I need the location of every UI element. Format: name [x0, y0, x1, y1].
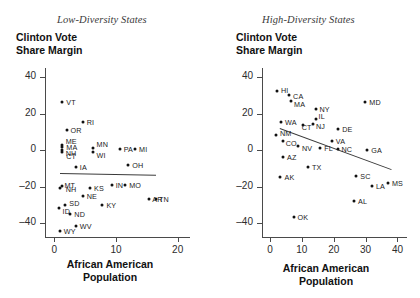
data-point-label: SD	[69, 198, 79, 207]
x-axis-tick	[54, 238, 55, 242]
data-point-label: ND	[74, 210, 85, 219]
data-point-label: RI	[87, 117, 95, 126]
data-point	[330, 139, 333, 142]
data-point-label: GA	[371, 146, 382, 155]
data-point-label: MS	[392, 178, 403, 187]
data-point	[280, 120, 283, 123]
y-axis-tick-label: 20	[242, 107, 253, 118]
data-point-label: WA	[285, 117, 297, 126]
y-axis-line	[45, 68, 46, 238]
y-axis-label-low-diversity: Clinton Vote Share Margin	[16, 31, 83, 56]
data-point-label: OK	[298, 212, 309, 221]
data-point	[91, 146, 94, 149]
panel-low-diversity: Low-Diversity States Clinton Vote Share …	[0, 0, 210, 298]
x-axis-label-line1: African American	[246, 262, 406, 275]
y-axis-tick: 20	[257, 114, 262, 115]
data-point-label: NH	[66, 184, 77, 193]
data-point	[61, 146, 64, 149]
data-point	[319, 147, 322, 150]
x-axis-tick	[366, 238, 367, 242]
data-point-label: PA	[124, 144, 133, 153]
data-point	[282, 155, 285, 158]
data-point	[364, 101, 367, 104]
y-axis-tick: 0	[40, 150, 45, 151]
data-point-label: NM	[280, 129, 291, 138]
data-point-label: AK	[284, 173, 294, 182]
x-axis-label-low-diversity: African American Population	[30, 258, 190, 283]
x-axis-tick-label: 40	[392, 244, 403, 255]
data-point	[57, 207, 60, 210]
data-point	[127, 164, 130, 167]
data-point-label: FL	[324, 144, 333, 153]
data-point-label: SC	[360, 172, 370, 181]
y-axis-tick-label: –40	[236, 216, 253, 227]
x-axis-tick	[116, 238, 117, 242]
data-point	[366, 149, 369, 152]
data-point	[314, 118, 317, 121]
x-axis-tick	[302, 238, 303, 242]
data-point-label: IL	[319, 112, 325, 121]
y-axis-tick: 0	[257, 150, 262, 151]
y-axis-label-line1: Clinton Vote	[16, 31, 83, 44]
data-point-label: OR	[71, 126, 82, 135]
data-point	[101, 203, 104, 206]
y-axis-tick: 40	[257, 77, 262, 78]
data-point	[124, 183, 127, 186]
y-axis-tick-label: 0	[30, 143, 36, 154]
data-point	[61, 101, 64, 104]
data-point	[64, 203, 67, 206]
x-axis-tick-label: 0	[51, 244, 57, 255]
data-point-label: WI	[97, 150, 106, 159]
data-point-label: AL	[358, 196, 367, 205]
panel-high-diversity: High-Diversity States Clinton Vote Share…	[210, 0, 420, 298]
y-axis-tick: –40	[257, 223, 262, 224]
y-axis-label-line2: Share Margin	[236, 44, 303, 57]
data-point	[74, 166, 77, 169]
y-axis-tick: –20	[40, 187, 45, 188]
data-point-label: NC	[342, 145, 353, 154]
data-point	[281, 140, 284, 143]
y-axis-tick: –40	[40, 223, 45, 224]
data-point-label: OH	[132, 161, 143, 170]
data-point-label: LA	[376, 182, 385, 191]
x-axis-label-line2: Population	[30, 271, 190, 284]
data-point	[288, 94, 291, 97]
data-point-label: TX	[312, 162, 322, 171]
x-axis-tick-label: 10	[296, 244, 307, 255]
y-axis-tick: –20	[257, 187, 262, 188]
plot-area-high-diversity: 40200–20–40010203040HICAMAMDNYWAILCTNJDE…	[262, 68, 407, 238]
data-point-label: VT	[66, 98, 76, 107]
data-point-label: CT	[302, 123, 312, 132]
data-point-label: TN	[159, 195, 169, 204]
y-axis-label-high-diversity: Clinton Vote Share Margin	[236, 31, 303, 56]
data-point-label: MA	[294, 99, 305, 108]
data-point	[314, 108, 317, 111]
panel-title-low-diversity: Low-Diversity States	[57, 14, 147, 25]
data-point	[148, 198, 151, 201]
y-axis-tick: 20	[40, 114, 45, 115]
x-axis-tick-label: 10	[110, 244, 121, 255]
data-point	[155, 198, 158, 201]
data-point	[297, 144, 300, 147]
data-point	[81, 120, 84, 123]
data-point	[275, 90, 278, 93]
x-axis-tick	[397, 238, 398, 242]
data-point-label: AZ	[287, 152, 297, 161]
trend-line	[60, 173, 156, 176]
data-point-label: WV	[80, 222, 92, 231]
y-axis-label-line1: Clinton Vote	[236, 31, 303, 44]
data-point	[60, 184, 63, 187]
data-point	[118, 147, 121, 150]
data-point-label: DE	[342, 125, 352, 134]
y-axis-tick-label: –40	[19, 216, 36, 227]
data-point	[337, 128, 340, 131]
data-point-label: IA	[80, 163, 87, 172]
x-axis-tick	[334, 238, 335, 242]
data-point-label: MN	[97, 140, 108, 149]
data-point-label: MO	[129, 180, 141, 189]
y-axis-tick-label: –20	[236, 180, 253, 191]
data-point	[370, 185, 373, 188]
y-axis-line	[262, 68, 263, 238]
y-axis-tick-label: –20	[19, 180, 36, 191]
x-axis-tick	[270, 238, 271, 242]
